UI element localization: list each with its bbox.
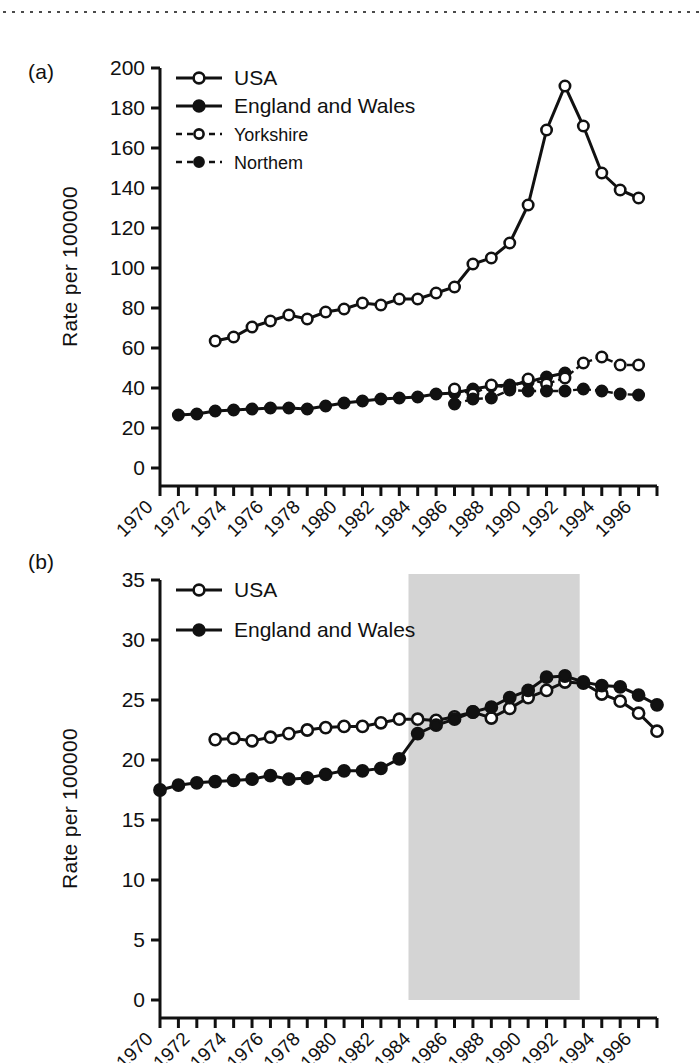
data-point bbox=[541, 685, 552, 696]
data-point bbox=[560, 386, 570, 396]
x-axis-tick-label: 1982 bbox=[333, 496, 378, 541]
figure-container: (a) Rate per 100000 02040608010012014016… bbox=[0, 0, 700, 1063]
data-point bbox=[228, 775, 239, 786]
y-axis-tick-label: 10 bbox=[122, 868, 145, 891]
data-point bbox=[449, 714, 460, 725]
data-point bbox=[247, 322, 257, 332]
data-point bbox=[431, 389, 441, 399]
y-axis-tick-label: 20 bbox=[122, 748, 145, 771]
y-axis-tick-label: 0 bbox=[133, 988, 145, 1011]
x-axis-tick-label: 1972 bbox=[149, 496, 194, 541]
y-axis-tick-label: 200 bbox=[110, 56, 145, 79]
data-point bbox=[228, 733, 239, 744]
data-point bbox=[431, 720, 442, 731]
data-point bbox=[357, 396, 367, 406]
data-point bbox=[376, 394, 386, 404]
y-axis-tick-label: 40 bbox=[122, 376, 145, 399]
data-point bbox=[357, 765, 368, 776]
data-point bbox=[357, 721, 368, 732]
data-point bbox=[633, 193, 643, 203]
data-point bbox=[486, 702, 497, 713]
y-axis-tick-label: 160 bbox=[110, 136, 145, 159]
x-axis-tick-label: 1996 bbox=[591, 496, 636, 541]
x-axis-tick-label: 1990 bbox=[480, 496, 525, 541]
data-point bbox=[633, 690, 644, 701]
data-point bbox=[505, 385, 515, 395]
data-point bbox=[247, 404, 257, 414]
data-point bbox=[376, 300, 386, 310]
data-point bbox=[394, 393, 404, 403]
data-point bbox=[192, 409, 202, 419]
data-point bbox=[302, 404, 312, 414]
data-point bbox=[246, 774, 257, 785]
data-point bbox=[357, 298, 367, 308]
x-axis-tick-label: 1986 bbox=[407, 496, 452, 541]
data-point bbox=[633, 708, 644, 719]
data-point bbox=[284, 403, 294, 413]
legend-label-england-and-wales: England and Wales bbox=[234, 94, 415, 117]
legend-marker bbox=[194, 73, 205, 84]
legend-marker bbox=[194, 625, 205, 636]
data-point bbox=[302, 314, 312, 324]
data-point bbox=[449, 384, 459, 394]
y-axis-tick-label: 180 bbox=[110, 96, 145, 119]
legend-label-england-and-wales: England and Wales bbox=[234, 618, 415, 641]
y-axis-tick-label: 35 bbox=[122, 568, 145, 591]
data-point bbox=[375, 717, 386, 728]
panel-a-plot: 0204060801001201401601802001970197219741… bbox=[0, 18, 700, 538]
y-axis-tick-label: 100 bbox=[110, 256, 145, 279]
data-point bbox=[541, 386, 551, 396]
shaded-period-band bbox=[409, 574, 580, 1000]
data-point bbox=[651, 726, 662, 737]
data-point bbox=[523, 374, 533, 384]
data-point bbox=[412, 714, 423, 725]
x-axis-tick-label: 1996 bbox=[591, 1028, 636, 1063]
data-point bbox=[523, 386, 533, 396]
data-point bbox=[486, 253, 496, 263]
y-axis-tick-label: 25 bbox=[122, 688, 145, 711]
legend-marker bbox=[194, 129, 203, 138]
data-point bbox=[468, 259, 478, 269]
panel-b: (b) Rate per 100000 05101520253035197019… bbox=[0, 538, 700, 1063]
data-point bbox=[265, 732, 276, 743]
y-axis-tick-label: 80 bbox=[122, 296, 145, 319]
x-axis-tick-label: 1978 bbox=[259, 496, 304, 541]
x-axis-tick-label: 1980 bbox=[296, 496, 341, 541]
data-point bbox=[431, 288, 441, 298]
data-point bbox=[191, 777, 202, 788]
data-point bbox=[210, 336, 220, 346]
data-point bbox=[541, 672, 552, 683]
data-point bbox=[320, 769, 331, 780]
data-point bbox=[265, 316, 275, 326]
data-point bbox=[283, 728, 294, 739]
x-axis-tick-label: 1974 bbox=[186, 496, 231, 541]
data-point bbox=[449, 282, 459, 292]
legend-marker bbox=[194, 585, 205, 596]
dotted-divider-line bbox=[0, 10, 700, 14]
data-point bbox=[560, 373, 570, 383]
legend-label-usa: USA bbox=[234, 66, 277, 89]
data-point bbox=[523, 200, 533, 210]
data-point bbox=[173, 410, 183, 420]
data-point bbox=[615, 185, 625, 195]
data-point bbox=[486, 380, 496, 390]
data-point bbox=[486, 393, 496, 403]
legend-label-usa: USA bbox=[234, 578, 277, 601]
data-point bbox=[651, 699, 662, 710]
data-point bbox=[578, 676, 589, 687]
data-point bbox=[467, 706, 478, 717]
data-point bbox=[615, 696, 626, 707]
data-point bbox=[320, 401, 330, 411]
data-point bbox=[597, 386, 607, 396]
legend-label-northem: Northem bbox=[234, 153, 303, 173]
data-point bbox=[320, 307, 330, 317]
y-axis-tick-label: 120 bbox=[110, 216, 145, 239]
data-point bbox=[615, 389, 625, 399]
y-axis-tick-label: 15 bbox=[122, 808, 145, 831]
data-point bbox=[228, 332, 238, 342]
data-point bbox=[375, 763, 386, 774]
data-point bbox=[154, 784, 165, 795]
data-point bbox=[246, 735, 257, 746]
data-point bbox=[578, 358, 588, 368]
panel-b-plot: 0510152025303519701972197419761978198019… bbox=[0, 538, 700, 1063]
